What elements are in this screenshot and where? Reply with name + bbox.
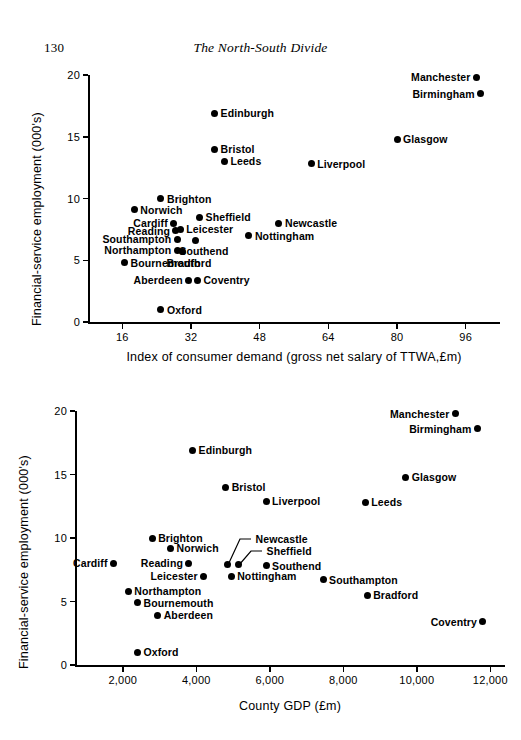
y-tick [83, 136, 88, 138]
x-tick [196, 667, 198, 672]
data-point-label: Manchester [411, 71, 470, 83]
data-point [192, 237, 199, 244]
x-tick [328, 324, 330, 329]
data-point-label: Aberdeen [134, 274, 183, 286]
data-point-label: Coventry [431, 616, 477, 628]
x-tick-label: 12,000 [473, 674, 508, 686]
data-point-label: Edinburgh [199, 444, 252, 456]
x-tick-label: 80 [391, 331, 404, 343]
y-tick [70, 410, 75, 412]
data-point [125, 588, 132, 595]
data-point [394, 136, 401, 143]
y-tick-label: 10 [29, 532, 67, 544]
x-tick [343, 667, 345, 672]
x-tick-label: 64 [322, 331, 335, 343]
data-point-label: Leeds [371, 496, 402, 508]
x-axis-title: County GDP (£m) [239, 699, 341, 713]
data-point [263, 498, 270, 505]
data-point [477, 90, 484, 97]
data-point-label: Reading [141, 557, 183, 569]
data-point [308, 160, 315, 167]
data-point-label: Coventry [203, 274, 249, 286]
data-point-label: Bournemouth [143, 597, 213, 609]
data-point [362, 499, 369, 506]
data-point-label: Cardiff [73, 557, 108, 569]
x-tick [396, 324, 398, 329]
x-tick-label: 4,000 [182, 674, 211, 686]
data-point [473, 74, 480, 81]
data-point [110, 560, 117, 567]
x-axis-title: Index of consumer demand (gross net sala… [126, 350, 461, 364]
x-tick [465, 324, 467, 329]
data-point-label: Liverpool [317, 158, 365, 170]
y-tick-label: 15 [29, 469, 67, 481]
page-canvas: 130 The North-South Divide 0510152016324… [0, 0, 521, 740]
data-point [200, 573, 207, 580]
x-tick [490, 667, 492, 672]
x-tick-label: 16 [116, 331, 129, 343]
data-point [364, 592, 371, 599]
data-point-label: Norwich [177, 542, 219, 554]
data-point [474, 425, 481, 432]
data-point-label: Bradford [373, 589, 418, 601]
plot-area-2: 051015202,0004,0006,0008,00010,00012,000… [0, 395, 521, 735]
data-point [452, 410, 459, 417]
y-tick [83, 260, 88, 262]
data-point [235, 561, 242, 568]
x-tick [259, 324, 261, 329]
y-axis-title: Financial-service employment (000's) [30, 112, 44, 326]
y-tick [70, 537, 75, 539]
data-point [134, 649, 141, 656]
x-tick [190, 324, 192, 329]
x-tick-label: 32 [185, 331, 198, 343]
data-point [245, 232, 252, 239]
y-tick [83, 198, 88, 200]
data-point [263, 562, 270, 569]
data-point-label: Leicester [186, 223, 233, 235]
x-tick-label: 2,000 [109, 674, 138, 686]
data-point-label: Newcastle [285, 217, 337, 229]
data-point-label: Northampton [134, 585, 201, 597]
data-point-label: Northampton [104, 244, 171, 256]
data-point-label: Edinburgh [221, 107, 274, 119]
scatter-chart-consumer-demand: 05101520163248648096Index of consumer de… [0, 60, 521, 370]
x-tick-label: 10,000 [399, 674, 434, 686]
data-point [320, 576, 327, 583]
data-point [121, 259, 128, 266]
x-tick [122, 667, 124, 672]
data-point-label: Southampton [329, 574, 398, 586]
y-tick [83, 74, 88, 76]
data-point-label: Nottingham [237, 570, 296, 582]
x-tick-label: 48 [253, 331, 266, 343]
x-tick [416, 667, 418, 672]
y-tick [70, 474, 75, 476]
scatter-chart-county-gdp: 051015202,0004,0006,0008,00010,00012,000… [0, 395, 521, 735]
y-tick [70, 601, 75, 603]
data-point-label: Norwich [140, 204, 182, 216]
x-tick [122, 324, 124, 329]
x-tick [269, 667, 271, 672]
running-head: The North-South Divide [0, 40, 521, 56]
y-tick-label: 10 [42, 193, 80, 205]
data-point [222, 484, 229, 491]
data-point-label: Nottingham [255, 230, 314, 242]
y-tick-label: 20 [42, 69, 80, 81]
data-point [179, 248, 186, 255]
data-point [196, 214, 203, 221]
data-point-label: Oxford [167, 304, 202, 316]
data-point [221, 158, 228, 165]
y-tick-label: 5 [42, 254, 80, 266]
data-point-label: Glasgow [403, 133, 447, 145]
data-point-label: Sheffield [206, 211, 251, 223]
y-tick-label: 0 [42, 316, 80, 328]
data-point-label: Birmingham [412, 88, 474, 100]
y-tick-label: 5 [29, 596, 67, 608]
data-point [479, 618, 486, 625]
data-point [154, 612, 161, 619]
x-axis-line [88, 322, 500, 324]
data-point-label: Bristol [232, 481, 266, 493]
y-axis-title: Financial-service employment (000's) [17, 455, 31, 669]
data-point-label: Sheffield [267, 545, 312, 557]
data-point-label: Leicester [151, 570, 198, 582]
data-point-label: Liverpool [272, 495, 320, 507]
